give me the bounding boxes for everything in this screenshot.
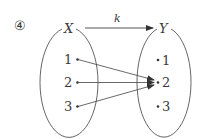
domain-element-1: 1 <box>64 52 72 67</box>
domain-label: X <box>63 21 74 36</box>
arrow-1-to-2 <box>78 60 154 81</box>
function-mapping-diagram: ④ X Y k 1 2 3 1 2 3 <box>0 0 203 139</box>
codomain-element-2: 2 <box>162 75 170 90</box>
domain-element-3: 3 <box>64 99 72 114</box>
codomain-label: Y <box>159 21 169 36</box>
codomain-element-3: 3 <box>162 99 170 114</box>
codomain-point-3 <box>157 105 160 108</box>
codomain-elements: 1 2 3 <box>157 53 171 114</box>
domain-element-2: 2 <box>64 75 72 90</box>
codomain-element-1: 1 <box>162 53 170 68</box>
domain-elements: 1 2 3 <box>64 52 79 114</box>
codomain-point-1 <box>157 59 160 62</box>
arrow-3-to-2 <box>78 85 154 107</box>
problem-number: ④ <box>14 18 26 33</box>
element-arrows <box>78 60 154 107</box>
codomain-point-2 <box>157 81 160 84</box>
mapping-name: k <box>114 12 121 25</box>
